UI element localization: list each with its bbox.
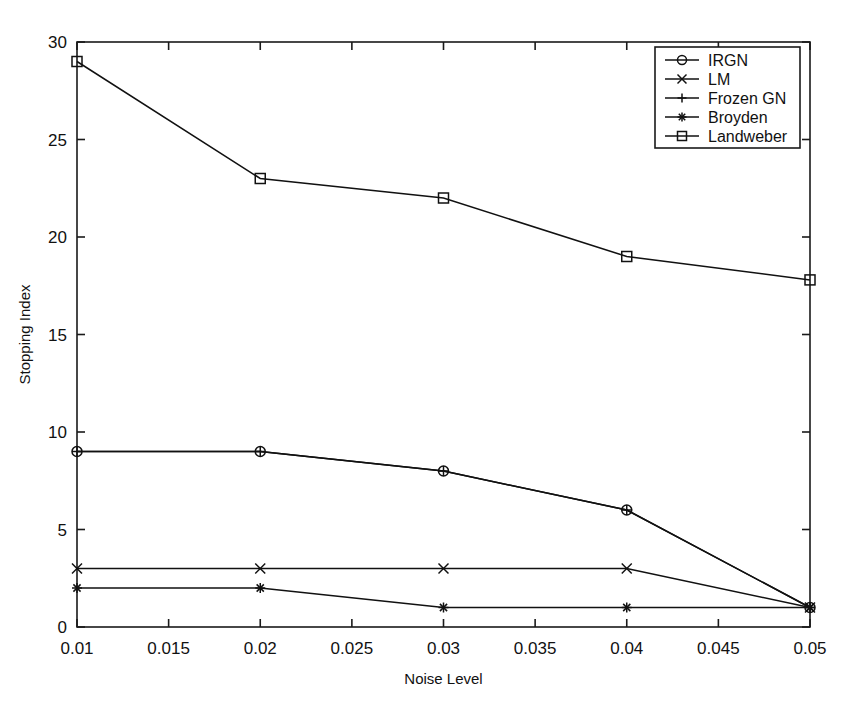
legend-label-broyden: Broyden bbox=[708, 109, 768, 126]
y-tick-label: 15 bbox=[48, 326, 67, 345]
y-tick-label: 30 bbox=[48, 33, 67, 52]
legend-broyden-marker bbox=[678, 113, 687, 122]
x-tick-label: 0.015 bbox=[147, 639, 190, 658]
y-tick-label: 20 bbox=[48, 228, 67, 247]
x-tick-label: 0.01 bbox=[60, 639, 93, 658]
datapoint-broyden-marker bbox=[805, 603, 815, 613]
y-tick-label: 5 bbox=[58, 521, 67, 540]
line-chart: 0.010.0150.020.0250.030.0350.040.0450.05… bbox=[0, 0, 853, 708]
legend-label-lm: LM bbox=[708, 71, 730, 88]
x-tick-label: 0.035 bbox=[514, 639, 557, 658]
datapoint-broyden-marker bbox=[255, 583, 265, 593]
datapoint-broyden-marker bbox=[622, 603, 632, 613]
figure-container: 0.010.0150.020.0250.030.0350.040.0450.05… bbox=[0, 0, 853, 708]
legend-label-irgn: IRGN bbox=[708, 52, 748, 69]
y-tick-label: 25 bbox=[48, 131, 67, 150]
x-tick-label: 0.05 bbox=[793, 639, 826, 658]
legend: IRGNLMFrozen GNBroydenLandweber bbox=[655, 47, 800, 148]
x-tick-label: 0.045 bbox=[697, 639, 740, 658]
x-tick-label: 0.04 bbox=[610, 639, 643, 658]
datapoint-broyden-marker bbox=[72, 583, 82, 593]
legend-label-landweber: Landweber bbox=[708, 128, 788, 145]
y-axis-title: Stopping Index bbox=[16, 284, 33, 385]
x-tick-label: 0.025 bbox=[331, 639, 374, 658]
legend-label-frozen-gn: Frozen GN bbox=[708, 90, 786, 107]
x-axis-title: Noise Level bbox=[404, 670, 482, 687]
y-tick-label: 0 bbox=[58, 618, 67, 637]
y-tick-label: 10 bbox=[48, 423, 67, 442]
series-broyden bbox=[72, 583, 815, 613]
datapoint-broyden-marker bbox=[439, 603, 449, 613]
x-tick-label: 0.02 bbox=[244, 639, 277, 658]
x-tick-label: 0.03 bbox=[427, 639, 460, 658]
